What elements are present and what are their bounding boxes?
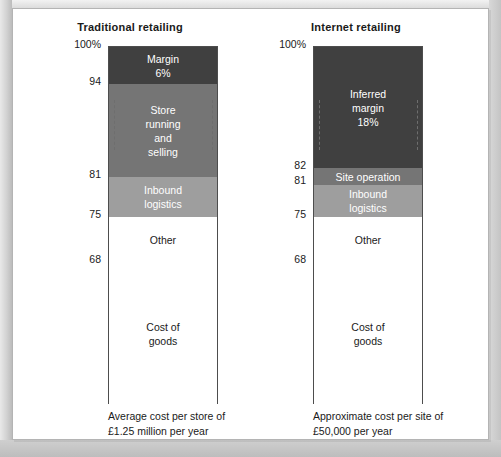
segment-site-operation: Site operation	[314, 168, 422, 185]
tick-label-100-right: 100%	[251, 38, 306, 50]
tick-label-68-left: 68	[43, 253, 101, 265]
tick-label-82-right: 82	[251, 159, 306, 171]
cost-of-goods-break-left-internet	[319, 100, 320, 150]
page-edge-bottom	[0, 440, 501, 457]
tick-label-81-left: 81	[43, 168, 101, 180]
panel-internet-retailing: Internet retailing 100% 82 81 75 68 Infe…	[251, 9, 490, 439]
segment-margin-traditional: Margin 6%	[109, 47, 217, 84]
segment-cost-of-goods-traditional: Cost of goods	[109, 262, 217, 405]
segment-other-traditional: Other	[109, 217, 217, 262]
segment-other-internet: Other	[314, 217, 422, 262]
caption-traditional: Average cost per store of £1.25 million …	[108, 409, 258, 438]
stacked-bar-traditional: Margin 6% Store running and selling Inbo…	[108, 46, 218, 404]
tick-label-68-right: 68	[251, 253, 306, 265]
tick-label-100-left: 100%	[43, 38, 101, 50]
tick-label-81-right: 81	[251, 174, 306, 186]
segment-inbound-logistics-traditional: Inbound logistics	[109, 177, 217, 217]
page-edge-top	[0, 0, 501, 8]
tick-label-75-right: 75	[251, 208, 306, 220]
cost-of-goods-break-right-traditional	[212, 100, 213, 150]
caption-internet: Approximate cost per site of £50,000 per…	[313, 409, 483, 438]
tick-label-94-left: 94	[43, 75, 101, 87]
panel-traditional-retailing: Traditional retailing 100% 94 81 75 68 M…	[13, 9, 251, 439]
cost-of-goods-break-right-internet	[417, 100, 418, 150]
segment-inbound-logistics-internet: Inbound logistics	[314, 185, 422, 217]
page-edge-right	[489, 0, 501, 457]
stacked-bar-internet: Inferred margin 18% Site operation Inbou…	[313, 46, 423, 404]
segment-inferred-margin-internet: Inferred margin 18%	[314, 47, 422, 168]
page-edge-left	[0, 0, 12, 457]
figure-page: Traditional retailing 100% 94 81 75 68 M…	[12, 8, 489, 440]
cost-of-goods-break-left-traditional	[114, 100, 115, 150]
tick-label-75-left: 75	[43, 208, 101, 220]
segment-store-running-selling: Store running and selling	[109, 84, 217, 177]
panel-title-internet: Internet retailing	[261, 21, 451, 33]
panel-title-traditional: Traditional retailing	[35, 21, 225, 33]
segment-cost-of-goods-internet: Cost of goods	[314, 262, 422, 405]
